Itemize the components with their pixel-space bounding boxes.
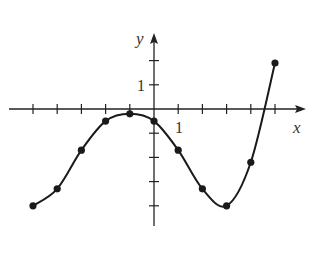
- y-unit-label: 1: [137, 77, 145, 94]
- data-point: [54, 185, 61, 192]
- data-point: [175, 147, 182, 154]
- x-unit-label: 1: [175, 119, 183, 136]
- data-point: [150, 118, 157, 125]
- data-point: [199, 185, 206, 192]
- data-point: [126, 110, 133, 117]
- data-point: [102, 118, 109, 125]
- plot-area: y x 1 1: [0, 0, 319, 255]
- data-point: [29, 202, 36, 209]
- data-point: [223, 202, 230, 209]
- data-point: [78, 147, 85, 154]
- data-point: [271, 59, 278, 66]
- y-axis-label: y: [134, 29, 144, 48]
- chart: y x 1 1: [0, 0, 319, 255]
- data-point: [247, 159, 254, 166]
- x-axis-label: x: [292, 118, 301, 137]
- axes: [9, 33, 306, 226]
